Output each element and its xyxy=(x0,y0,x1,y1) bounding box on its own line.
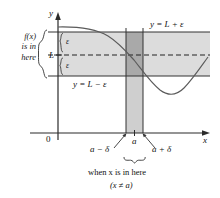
upper-line-label: y = L + ε xyxy=(150,19,184,29)
f-of-x-caption: f(x) is in here xyxy=(2,31,36,62)
a-minus-delta-arrowhead xyxy=(122,133,126,137)
epsilon-delta-limit-figure: y x 0 y = L + ε y = L − ε L ε ε f(x) is … xyxy=(0,0,220,198)
bottom-caption-line-2: (x ≠ a) xyxy=(110,181,133,191)
bottom-caption-line-1: when x is in here xyxy=(88,168,146,178)
a-minus-delta-leader xyxy=(114,135,125,148)
y-axis-label: y xyxy=(49,8,53,18)
origin-label: 0 xyxy=(46,134,51,144)
limit-value-label: L xyxy=(49,50,54,60)
lower-line-label: y = L − ε xyxy=(73,79,107,89)
a-plus-delta-arrowhead xyxy=(143,133,147,137)
y-axis-arrow xyxy=(55,12,61,20)
a-minus-delta-label: a − δ xyxy=(90,144,109,154)
a-label: a xyxy=(132,136,137,146)
a-plus-delta-label: a + δ xyxy=(152,144,171,154)
x-axis-label: x xyxy=(203,135,207,145)
f-of-x-caption-line-2: is in xyxy=(2,41,36,51)
f-of-x-caption-line-3: here xyxy=(2,52,36,62)
epsilon-lower-label: ε xyxy=(66,62,69,70)
f-of-x-bracket xyxy=(39,30,48,78)
epsilon-upper-label: ε xyxy=(66,38,69,46)
f-of-x-caption-line-1: f(x) xyxy=(2,31,36,41)
delta-interval-underbrace xyxy=(124,157,145,163)
